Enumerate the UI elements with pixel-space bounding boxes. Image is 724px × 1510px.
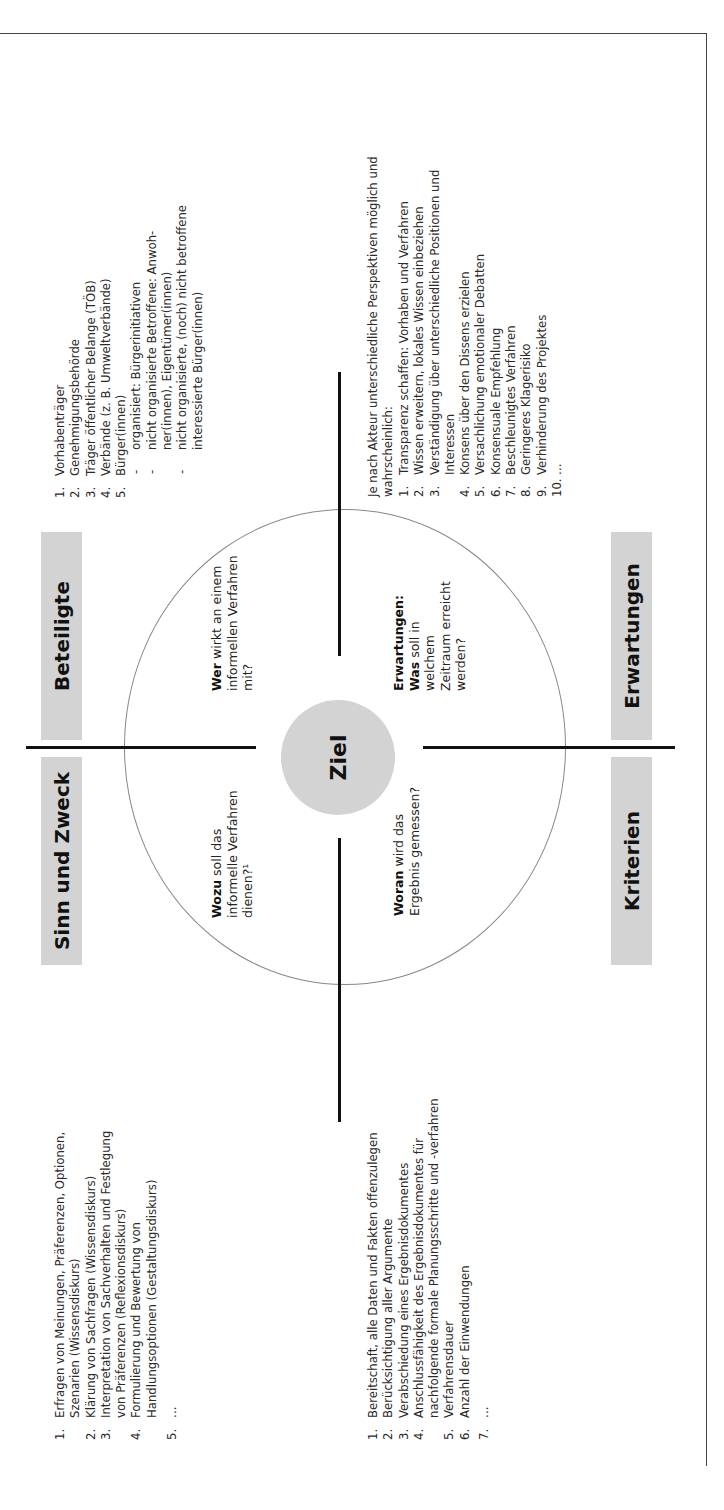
list-item: 7.Beschleunigtes Verfahren: [504, 152, 519, 497]
list-item: 6.Anzahl der Einwendungen: [458, 1095, 473, 1440]
question-kriterien: Woran wird das Ergebnis gemessen?: [391, 756, 422, 916]
list-item: 1.Erfragen von Meinungen, Präferenzen, O…: [53, 1122, 84, 1440]
cross-line-top: [26, 747, 256, 750]
list-subitem: -nicht organisierte, (noch) nicht betrof…: [175, 180, 206, 498]
list-item: 4.Konsens über den Dissens erzielen: [458, 152, 473, 497]
list-item: 3.Verständigung über unterschiedliche Po…: [428, 155, 459, 497]
center-goal-label: Ziel: [326, 735, 351, 781]
list-item: 2.Berücksichtigung aller Argumente: [381, 1095, 396, 1440]
title-erwartungen: Erwartungen: [611, 532, 652, 740]
cross-line-bottom: [423, 747, 675, 750]
list-sinn: 1.Erfragen von Meinungen, Präferenzen, O…: [53, 1122, 180, 1440]
erwartungen-intro: Je nach Akteur unterschiedliche Perspekt…: [366, 152, 397, 497]
title-sinn-und-zweck: Sinn und Zweck: [41, 757, 82, 965]
list-item: 4.Verbände (z. B. Umweltverbände): [99, 168, 114, 498]
list-item: 4.Formulierung und Bewertung von Handlun…: [129, 1122, 160, 1440]
list-item: 1.Bereitschaft, alle Daten und Fakten of…: [366, 1095, 381, 1440]
list-item: 5.Bürger(innen): [114, 168, 129, 498]
list-item: 3.Interpretation von Sachverhalten und F…: [99, 1122, 130, 1440]
list-item: 3.Träger öffentlicher Belange (TÖB): [84, 168, 99, 498]
question-erwartungen: Erwartungen:Was soll in welchem Zeitraum…: [391, 576, 469, 691]
question-beteiligte: Wer wirkt an einem informellen Verfahren…: [209, 541, 256, 691]
list-item: 5.Versachlichung emotionaler Debatten: [473, 152, 488, 497]
list-item: 10.…: [550, 152, 565, 497]
list-item: 5.Verfahrensdauer: [442, 1095, 457, 1440]
question-sinn: Wozu soll das informelle Verfahren diene…: [209, 768, 256, 918]
list-item: 8.Geringeres Klagerisiko: [519, 152, 534, 497]
list-kriterien: 1.Bereitschaft, alle Daten und Fakten of…: [366, 1095, 492, 1440]
list-erwartungen: 1.Transparenz schaffen: Vorhaben und Ver…: [397, 152, 565, 497]
list-item: 7.…: [477, 1095, 492, 1440]
title-beteiligte: Beteiligte: [41, 532, 82, 740]
list-item: 4.Anschlussfähigkeit des Ergebnisdokumen…: [412, 1095, 443, 1440]
rotated-diagram-page: Ziel Sinn und Zweck Beteiligte Kriterien…: [0, 31, 709, 1466]
center-goal: Ziel: [281, 700, 395, 815]
list-beteiligte: 1.Vorhabenträger 2.Genehmigungsbehörde 3…: [53, 168, 206, 498]
list-item: 1.Transparenz schaffen: Vorhaben und Ver…: [397, 152, 412, 497]
title-kriterien: Kriterien: [611, 757, 652, 965]
list-subitem: -nicht organisierte Betroffene: Anwoh-ne…: [145, 205, 176, 498]
cross-line-right: [338, 372, 341, 656]
list-item: 2.Wissen erweitern, lokales Wissen einbe…: [412, 152, 427, 497]
cross-line-left: [338, 838, 341, 1122]
list-item: 3.Verabschiedung eines Ergebnisdokumente…: [397, 1095, 412, 1440]
list-item: 1.Vorhabenträger: [53, 168, 68, 498]
list-item: 2.Klärung von Sachfragen (Wissensdiskurs…: [84, 1122, 99, 1440]
list-item: 6.Konsensuale Empfehlung: [489, 152, 504, 497]
list-subitem: -organisiert: Bürgerinitiativen: [129, 168, 144, 498]
list-item: 5.…: [165, 1122, 180, 1440]
list-item: 2.Genehmigungsbehörde: [68, 168, 83, 498]
list-item: 9.Verhinderung des Projektes: [535, 152, 550, 497]
